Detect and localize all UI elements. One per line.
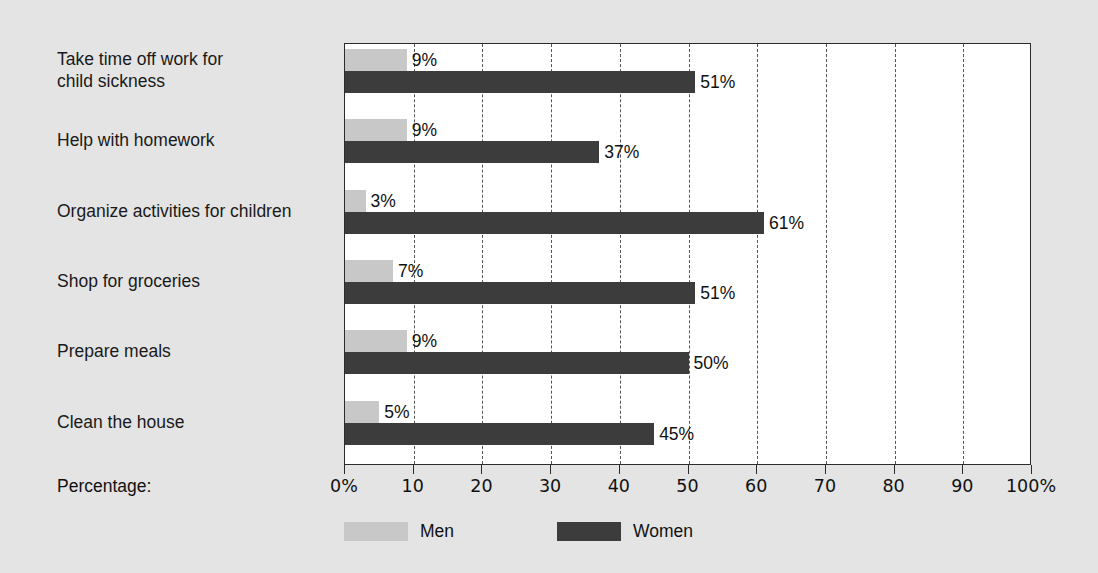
- x-tick-label-100: 100%: [1006, 476, 1056, 496]
- x-tick-label-70: 70: [814, 476, 836, 496]
- category-label-3: Shop for groceries: [57, 270, 200, 292]
- x-axis-tick-labels: 0%102030405060708090100%: [344, 476, 1031, 502]
- bar-value-women-2: 61%: [764, 212, 804, 234]
- x-tick-label-80: 80: [882, 476, 904, 496]
- bar-men-1: [345, 119, 407, 141]
- tick-0: [344, 465, 345, 474]
- legend-swatch-women: [557, 522, 621, 541]
- tick-30: [550, 465, 551, 474]
- bar-chart: Take time off work for child sicknessHel…: [0, 0, 1098, 573]
- legend-label-men: Men: [420, 521, 454, 542]
- category-label-5: Clean the house: [57, 411, 184, 433]
- bar-men-2: [345, 190, 366, 212]
- tick-20: [481, 465, 482, 474]
- bar-value-men-1: 9%: [407, 119, 437, 141]
- bar-value-men-0: 9%: [407, 49, 437, 71]
- bar-value-women-4: 50%: [689, 352, 729, 374]
- bar-women-5: [345, 423, 654, 445]
- plot-area: 9%51%9%37%3%61%7%51%9%50%5%45%: [344, 43, 1031, 465]
- x-tick-label-90: 90: [951, 476, 973, 496]
- legend-item-women[interactable]: Women: [557, 521, 693, 542]
- legend-swatch-men: [344, 522, 408, 541]
- category-label-4: Prepare meals: [57, 340, 171, 362]
- tick-60: [756, 465, 757, 474]
- x-axis-ticks: [344, 465, 1031, 474]
- bar-men-0: [345, 49, 407, 71]
- tick-80: [894, 465, 895, 474]
- bar-men-4: [345, 330, 407, 352]
- bar-series-container: 9%51%9%37%3%61%7%51%9%50%5%45%: [345, 44, 1030, 464]
- tick-40: [619, 465, 620, 474]
- legend-item-men[interactable]: Men: [344, 521, 454, 542]
- bar-value-women-0: 51%: [695, 71, 735, 93]
- bar-women-1: [345, 141, 599, 163]
- bar-value-men-2: 3%: [366, 190, 396, 212]
- tick-90: [962, 465, 963, 474]
- bar-women-3: [345, 282, 695, 304]
- bar-value-men-4: 9%: [407, 330, 437, 352]
- category-label-2: Organize activities for children: [57, 200, 291, 222]
- bar-value-men-3: 7%: [393, 260, 423, 282]
- x-tick-label-30: 30: [539, 476, 561, 496]
- x-tick-label-50: 50: [676, 476, 698, 496]
- x-tick-label-40: 40: [608, 476, 630, 496]
- category-label-1: Help with homework: [57, 129, 215, 151]
- bar-value-women-1: 37%: [599, 141, 639, 163]
- bar-women-0: [345, 71, 695, 93]
- x-axis-title: Percentage:: [57, 476, 151, 497]
- tick-50: [688, 465, 689, 474]
- bar-women-4: [345, 352, 689, 374]
- bar-men-5: [345, 401, 379, 423]
- category-label-list: Take time off work for child sicknessHel…: [0, 43, 330, 465]
- tick-100: [1031, 465, 1032, 474]
- bar-value-women-5: 45%: [654, 423, 694, 445]
- bar-value-men-5: 5%: [379, 401, 409, 423]
- x-tick-label-20: 20: [470, 476, 492, 496]
- bar-men-3: [345, 260, 393, 282]
- category-label-0: Take time off work for child sickness: [57, 48, 223, 93]
- bar-women-2: [345, 212, 764, 234]
- tick-10: [413, 465, 414, 474]
- x-tick-label-60: 60: [745, 476, 767, 496]
- x-tick-label-10: 10: [402, 476, 424, 496]
- bar-value-women-3: 51%: [695, 282, 735, 304]
- legend-label-women: Women: [633, 521, 693, 542]
- tick-70: [825, 465, 826, 474]
- x-tick-label-0: 0%: [330, 476, 358, 496]
